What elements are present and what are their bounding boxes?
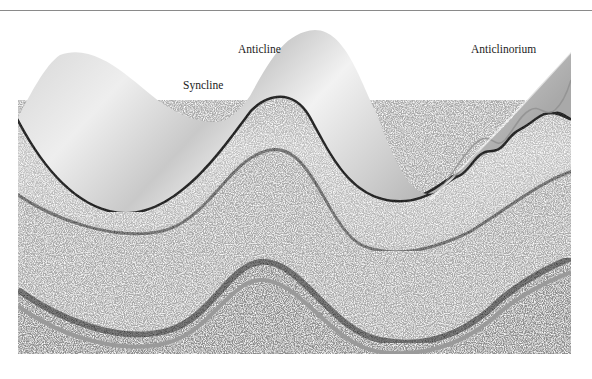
syncline-label: Syncline [183, 79, 223, 91]
anticline-label: Anticline [238, 43, 281, 55]
anticlinorium-label: Anticlinorium [471, 43, 536, 55]
fold-cross-section-diagram [0, 0, 592, 379]
